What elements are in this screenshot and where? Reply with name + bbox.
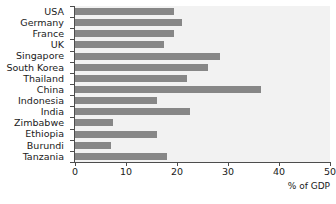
- bar-row: [75, 51, 330, 62]
- bar-row: [75, 17, 330, 28]
- bar-indonesia: [75, 97, 157, 104]
- plot-area: [75, 6, 330, 162]
- y-axis-label-ethiopia: Ethiopia: [0, 129, 68, 140]
- bar-germany: [75, 19, 182, 26]
- x-tick-label: 10: [120, 167, 132, 177]
- y-tick-mark: [70, 51, 74, 52]
- bar-uk: [75, 41, 164, 48]
- x-axis-title: % of GDP: [288, 182, 330, 191]
- bar-usa: [75, 8, 174, 15]
- x-tick-label: 30: [222, 167, 234, 177]
- y-tick-mark: [70, 39, 74, 40]
- bar-india: [75, 108, 190, 115]
- bar-china: [75, 86, 261, 93]
- x-tick-label: 0: [72, 167, 78, 177]
- y-axis-label-tanzania: Tanzania: [0, 151, 68, 162]
- bar-france: [75, 30, 174, 37]
- y-axis-label-burundi: Burundi: [0, 140, 68, 151]
- bar-row: [75, 6, 330, 17]
- y-axis-label-singapore: Singapore: [0, 51, 68, 62]
- y-axis-label-indonesia: Indonesia: [0, 95, 68, 106]
- bar-row: [75, 140, 330, 151]
- y-axis-label-germany: Germany: [0, 17, 68, 28]
- y-axis-label-zimbabwe: Zimbabwe: [0, 117, 68, 128]
- bar-row: [75, 73, 330, 84]
- bar-singapore: [75, 53, 220, 60]
- y-axis-label-india: India: [0, 106, 68, 117]
- y-axis-label-usa: USA: [0, 6, 68, 17]
- x-tick-label: 40: [273, 167, 285, 177]
- y-tick-mark: [70, 129, 74, 130]
- y-tick-mark: [70, 106, 74, 107]
- bar-burundi: [75, 142, 111, 149]
- y-tick-mark: [70, 84, 74, 85]
- y-tick-mark: [70, 62, 74, 63]
- bar-ethiopia: [75, 131, 157, 138]
- bar-row: [75, 106, 330, 117]
- y-tick-mark: [70, 117, 74, 118]
- bar-row: [75, 151, 330, 162]
- bar-south-korea: [75, 64, 208, 71]
- y-axis-label-china: China: [0, 84, 68, 95]
- x-axis-tick-labels: 01020304050: [74, 167, 331, 180]
- bar-zimbabwe: [75, 119, 113, 126]
- bar-row: [75, 95, 330, 106]
- bar-thailand: [75, 75, 187, 82]
- bar-row: [75, 84, 330, 95]
- bar-row: [75, 62, 330, 73]
- y-tick-mark: [70, 95, 74, 96]
- y-axis-label-france: France: [0, 28, 68, 39]
- x-axis-ticks: [74, 162, 331, 166]
- bar-row: [75, 39, 330, 50]
- bar-row: [75, 129, 330, 140]
- x-tick-label: 50: [324, 167, 336, 177]
- bar-row: [75, 28, 330, 39]
- y-tick-mark: [70, 140, 74, 141]
- y-axis-label-south-korea: South Korea: [0, 62, 68, 73]
- y-tick-mark: [70, 6, 74, 7]
- x-tick-label: 20: [171, 167, 183, 177]
- bar-row: [75, 117, 330, 128]
- y-tick-mark: [70, 17, 74, 18]
- y-axis-ticks: [70, 6, 74, 162]
- y-axis-label-uk: UK: [0, 39, 68, 50]
- bar-tanzania: [75, 153, 167, 160]
- y-tick-mark: [70, 73, 74, 74]
- y-axis-label-thailand: Thailand: [0, 73, 68, 84]
- y-tick-mark: [70, 151, 74, 152]
- y-tick-mark: [70, 28, 74, 29]
- y-axis-category-labels: USAGermanyFranceUKSingaporeSouth KoreaTh…: [0, 6, 68, 162]
